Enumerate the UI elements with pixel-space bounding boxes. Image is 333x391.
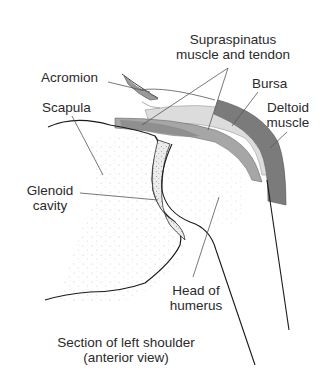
shoulder-anatomy-diagram: Supraspinatus muscle and tendon Acromion… xyxy=(0,0,333,391)
label-deltoid-line1: Deltoid xyxy=(262,100,314,115)
label-supraspinatus-line2: muscle and tendon xyxy=(167,47,299,62)
label-scapula: Scapula xyxy=(42,100,91,115)
label-acromion: Acromion xyxy=(41,70,98,85)
label-supraspinatus-line1: Supraspinatus xyxy=(167,32,299,47)
label-supraspinatus: Supraspinatus muscle and tendon xyxy=(167,32,299,62)
caption-title: Section of left shoulder xyxy=(46,335,206,350)
humerus-stipple xyxy=(167,146,244,226)
label-bursa: Bursa xyxy=(252,76,287,91)
label-humerus-line1: Head of xyxy=(166,283,226,298)
label-glenoid: Glenoid cavity xyxy=(22,183,78,213)
label-humerus-line2: humerus xyxy=(166,298,226,313)
label-humerus: Head of humerus xyxy=(166,283,226,313)
label-glenoid-line1: Glenoid xyxy=(22,183,78,198)
caption-subtitle: (anterior view) xyxy=(46,350,206,365)
acromion-shape xyxy=(122,74,215,108)
label-deltoid: Deltoid muscle xyxy=(262,100,314,130)
figure-caption: Section of left shoulder (anterior view) xyxy=(46,335,206,365)
label-deltoid-line2: muscle xyxy=(262,115,314,130)
label-glenoid-line2: cavity xyxy=(22,198,78,213)
